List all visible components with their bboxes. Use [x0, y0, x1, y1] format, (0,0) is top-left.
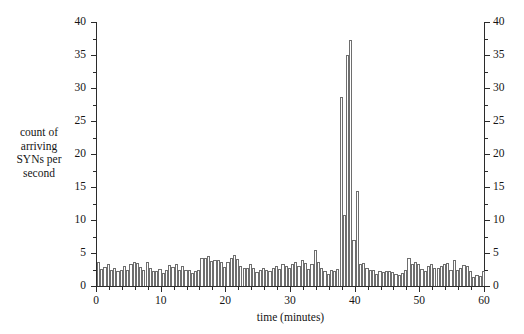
- y-axis-right-tick-label: 40: [493, 16, 523, 28]
- x-axis-tick-label: 10: [146, 295, 176, 307]
- y-axis-right-tick-label: 15: [493, 181, 523, 193]
- x-axis-minor-tick: [406, 287, 407, 290]
- x-axis-minor-tick: [174, 287, 175, 290]
- x-axis-tick-label: 40: [340, 295, 370, 307]
- y-axis-major-tick: [91, 22, 96, 23]
- y-axis-major-tick: [91, 121, 96, 122]
- y-axis-minor-tick: [485, 39, 488, 40]
- y-axis-major-tick: [91, 154, 96, 155]
- chart-figure: count of arriving SYNs per second 051015…: [0, 0, 524, 334]
- bar: [482, 271, 485, 286]
- x-axis-minor-tick: [135, 287, 136, 290]
- plot-area: 0510152025303540 0510152025303540 010203…: [96, 22, 485, 286]
- x-axis-tick-label: 0: [81, 295, 111, 307]
- y-axis-minor-tick: [93, 204, 96, 205]
- y-axis-left-tick-label: 15: [56, 181, 86, 193]
- x-axis-minor-tick: [251, 287, 252, 290]
- y-axis-minor-tick: [93, 72, 96, 73]
- y-axis-major-tick: [485, 22, 490, 23]
- y-axis-minor-tick: [485, 171, 488, 172]
- y-axis-major-tick: [485, 220, 490, 221]
- y-axis-right-tick-label: 20: [493, 148, 523, 160]
- x-axis-major-tick: [225, 287, 226, 292]
- x-axis-minor-tick: [212, 287, 213, 290]
- y-axis-minor-tick: [93, 237, 96, 238]
- y-axis-left-tick-label: 40: [56, 16, 86, 28]
- x-axis-major-tick: [355, 287, 356, 292]
- bar-series: [97, 22, 485, 286]
- y-axis-minor-tick: [93, 105, 96, 106]
- y-axis-major-tick: [485, 286, 490, 287]
- y-axis-minor-tick: [93, 138, 96, 139]
- y-axis-major-tick: [485, 253, 490, 254]
- y-axis-right-tick-label: 25: [493, 115, 523, 127]
- y-axis-major-tick: [91, 220, 96, 221]
- y-axis-minor-tick: [485, 204, 488, 205]
- x-axis-minor-tick: [109, 287, 110, 290]
- y-axis-major-tick: [485, 154, 490, 155]
- x-axis-minor-tick: [148, 287, 149, 290]
- y-axis-minor-tick: [485, 270, 488, 271]
- y-axis-minor-tick: [93, 171, 96, 172]
- y-axis-left-tick-label: 5: [56, 247, 86, 259]
- y-axis-right-tick-label: 5: [493, 247, 523, 259]
- y-axis-left-tick-label: 10: [56, 214, 86, 226]
- x-axis-major-tick: [161, 287, 162, 292]
- x-axis-minor-tick: [187, 287, 188, 290]
- y-axis-minor-tick: [485, 72, 488, 73]
- y-axis-left-tick-label: 25: [56, 115, 86, 127]
- x-axis-minor-tick: [199, 287, 200, 290]
- x-axis-minor-tick: [381, 287, 382, 290]
- x-axis-minor-tick: [122, 287, 123, 290]
- y-axis-right-tick-label: 0: [493, 280, 523, 292]
- y-axis-right-tick-label: 35: [493, 49, 523, 61]
- x-axis-minor-tick: [264, 287, 265, 290]
- x-axis-caption: time (minutes): [96, 311, 485, 323]
- y-axis-left-tick-label: 30: [56, 82, 86, 94]
- y-axis-right-tick-label: 10: [493, 214, 523, 226]
- x-axis-minor-tick: [445, 287, 446, 290]
- y-axis-major-tick: [91, 55, 96, 56]
- y-axis-major-tick: [485, 55, 490, 56]
- x-axis-major-tick: [419, 287, 420, 292]
- y-axis-right-tick-label: 30: [493, 82, 523, 94]
- y-axis-minor-tick: [93, 270, 96, 271]
- y-axis-minor-tick: [485, 105, 488, 106]
- x-axis-minor-tick: [238, 287, 239, 290]
- x-axis-minor-tick: [471, 287, 472, 290]
- y-axis-major-tick: [485, 88, 490, 89]
- y-axis-major-tick: [91, 88, 96, 89]
- x-axis-minor-tick: [277, 287, 278, 290]
- x-axis-tick-label: 20: [210, 295, 240, 307]
- x-axis-minor-tick: [316, 287, 317, 290]
- y-axis-major-tick: [485, 187, 490, 188]
- y-axis-major-tick: [485, 121, 490, 122]
- x-axis-tick-label: 30: [275, 295, 305, 307]
- y-axis-left-tick-label: 35: [56, 49, 86, 61]
- y-axis-minor-tick: [485, 237, 488, 238]
- x-axis-minor-tick: [432, 287, 433, 290]
- x-axis-minor-tick: [393, 287, 394, 290]
- y-axis-minor-tick: [485, 138, 488, 139]
- x-axis-major-tick: [96, 287, 97, 292]
- x-axis-major-tick: [290, 287, 291, 292]
- y-axis-caption-line-4: second: [2, 167, 76, 181]
- x-axis-minor-tick: [458, 287, 459, 290]
- y-axis-minor-tick: [93, 39, 96, 40]
- x-axis-tick-label: 50: [404, 295, 434, 307]
- y-axis-major-tick: [91, 187, 96, 188]
- y-axis-major-tick: [91, 253, 96, 254]
- x-axis-minor-tick: [329, 287, 330, 290]
- x-axis-major-tick: [484, 287, 485, 292]
- x-axis-minor-tick: [342, 287, 343, 290]
- x-axis-minor-tick: [303, 287, 304, 290]
- x-axis-minor-tick: [368, 287, 369, 290]
- y-axis-left-tick-label: 20: [56, 148, 86, 160]
- x-axis-tick-label: 60: [469, 295, 499, 307]
- y-axis-left-tick-label: 0: [56, 280, 86, 292]
- y-axis-caption-line-1: count of: [2, 126, 76, 140]
